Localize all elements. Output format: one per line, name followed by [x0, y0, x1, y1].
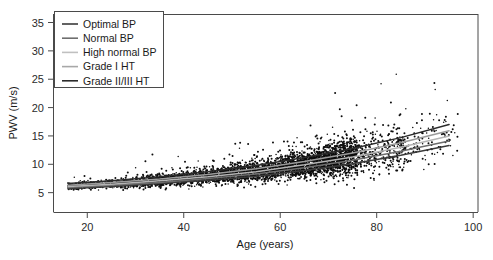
scatter-point [380, 83, 382, 85]
scatter-point [374, 138, 376, 140]
scatter-point [342, 179, 344, 181]
scatter-point [256, 162, 258, 164]
scatter-point [132, 177, 134, 179]
scatter-point [306, 180, 308, 182]
scatter-point [329, 145, 331, 147]
scatter-point [342, 142, 344, 144]
scatter-point [236, 179, 238, 181]
scatter-point [317, 176, 319, 178]
scatter-point [304, 145, 306, 147]
scatter-point [338, 145, 340, 147]
scatter-point [354, 137, 356, 139]
scatter-point [315, 182, 317, 184]
y-tick-label: 30 [32, 45, 44, 57]
scatter-point [310, 148, 312, 150]
scatter-point [395, 128, 397, 130]
scatter-point [357, 144, 359, 146]
scatter-point [387, 134, 389, 136]
scatter-point [394, 146, 396, 148]
chart-legend: Optimal BPNormal BPHigh normal BPGrade I… [55, 12, 164, 88]
scatter-point [332, 127, 334, 128]
scatter-point [354, 168, 356, 170]
scatter-point [315, 178, 317, 180]
scatter-point [411, 154, 413, 156]
scatter-point [253, 178, 255, 180]
scatter-point [200, 185, 202, 187]
scatter-point [190, 167, 192, 169]
scatter-point [311, 152, 313, 154]
scatter-point [161, 168, 163, 170]
scatter-point [399, 145, 401, 147]
scatter-point [296, 151, 298, 153]
scatter-point [333, 142, 335, 144]
scatter-point [442, 153, 444, 155]
scatter-point [345, 174, 347, 176]
scatter-point [396, 133, 398, 135]
x-tick-label: 80 [371, 221, 383, 233]
scatter-point [307, 172, 309, 174]
scatter-point [126, 188, 128, 190]
scatter-point [312, 173, 314, 175]
scatter-point [378, 161, 380, 163]
scatter-point [310, 174, 312, 176]
scatter-point [454, 132, 456, 134]
scatter-point [179, 167, 181, 169]
scatter-point [437, 152, 439, 154]
scatter-point [326, 180, 328, 182]
scatter-point [340, 153, 342, 155]
scatter-point [280, 157, 282, 159]
scatter-point [243, 187, 245, 189]
scatter-point [201, 183, 203, 185]
scatter-point [290, 173, 292, 175]
scatter-point [222, 165, 224, 167]
scatter-point [314, 148, 316, 150]
scatter-point [351, 120, 353, 122]
scatter-point [287, 141, 289, 143]
scatter-point [330, 174, 332, 176]
scatter-point [328, 140, 330, 142]
scatter-point [351, 168, 353, 170]
scatter-point [294, 154, 296, 156]
scatter-point [300, 177, 302, 179]
scatter-point [267, 180, 269, 182]
scatter-point [404, 161, 406, 163]
scatter-point [403, 132, 405, 134]
scatter-point [271, 158, 273, 160]
scatter-point [453, 124, 455, 126]
scatter-point [321, 137, 323, 139]
scatter-point [351, 150, 353, 152]
y-axis-title: PWV (m/s) [7, 86, 19, 139]
scatter-point [341, 168, 343, 170]
scatter-point [206, 181, 208, 183]
scatter-point [230, 161, 232, 163]
scatter-point [391, 162, 393, 164]
scatter-point [255, 178, 257, 180]
scatter-point [370, 164, 372, 166]
scatter-point [254, 158, 256, 160]
scatter-point [360, 166, 362, 168]
scatter-point [338, 180, 340, 182]
scatter-point [146, 171, 148, 173]
scatter-point [344, 145, 346, 147]
scatter-point [294, 157, 296, 159]
scatter-point [450, 131, 452, 133]
scatter-point [120, 177, 122, 179]
scatter-point [443, 122, 445, 124]
scatter-point [344, 131, 346, 133]
scatter-point [264, 183, 266, 185]
scatter-point [410, 160, 412, 162]
scatter-point [249, 160, 251, 162]
scatter-point [143, 189, 145, 191]
scatter-point [403, 162, 405, 164]
scatter-point [354, 172, 356, 174]
scatter-point [356, 140, 358, 142]
scatter-point [197, 160, 199, 162]
scatter-point [392, 163, 394, 165]
scatter-point [293, 152, 295, 154]
scatter-point [254, 161, 256, 163]
scatter-point [416, 122, 418, 124]
scatter-point [381, 148, 383, 150]
scatter-point [373, 140, 375, 142]
scatter-point [301, 150, 303, 152]
scatter-point [376, 162, 378, 164]
